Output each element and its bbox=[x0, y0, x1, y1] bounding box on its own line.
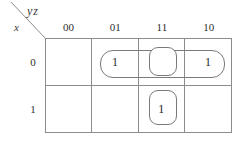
row-header-column: 0 1 bbox=[23, 38, 43, 133]
cell-row1-col11[interactable]: 1 bbox=[139, 86, 185, 133]
row-header-1: 1 bbox=[23, 86, 43, 134]
column-header-00: 00 bbox=[45, 19, 92, 36]
cell-value: 1 bbox=[158, 56, 164, 68]
cell-row1-col00[interactable] bbox=[46, 86, 92, 133]
cell-value: 1 bbox=[158, 103, 164, 115]
karnaugh-map: yz x 00 01 11 10 0 1 1 1 1 1 bbox=[0, 0, 240, 143]
column-header-10: 10 bbox=[185, 19, 232, 36]
column-header-01: 01 bbox=[92, 19, 139, 36]
cell-row0-col00[interactable] bbox=[46, 39, 92, 86]
column-header-11: 11 bbox=[139, 19, 186, 36]
row-header-0: 0 bbox=[23, 38, 43, 86]
cell-row1-col10[interactable] bbox=[185, 86, 231, 133]
cell-value: 1 bbox=[112, 56, 118, 68]
kmap-grid: 1 1 1 1 bbox=[45, 38, 232, 133]
cell-row0-col10[interactable]: 1 bbox=[185, 39, 231, 86]
cell-row0-col01[interactable]: 1 bbox=[92, 39, 138, 86]
cell-row0-col11[interactable]: 1 bbox=[139, 39, 185, 86]
column-variables-label: yz bbox=[27, 5, 39, 17]
row-variable-label: x bbox=[14, 22, 19, 33]
cell-row1-col01[interactable] bbox=[92, 86, 138, 133]
column-header-row: 00 01 11 10 bbox=[45, 19, 232, 36]
cell-value: 1 bbox=[205, 56, 211, 68]
